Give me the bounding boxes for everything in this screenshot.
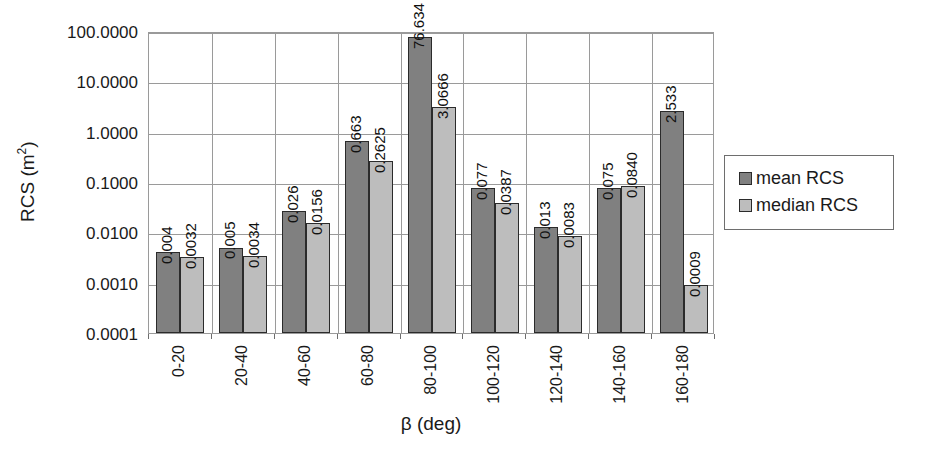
x-axis-tick-mark [714, 334, 715, 339]
bar-value-label-median-140-160: 0.0840 [624, 152, 639, 198]
bar-mean-40-60[interactable] [282, 211, 306, 333]
bar-median-60-80[interactable] [369, 161, 393, 333]
x-axis-tick-mark [211, 334, 212, 339]
bar-mean-160-180[interactable] [660, 111, 684, 333]
x-axis-label-140-160: 140-160 [612, 345, 628, 404]
x-axis-tick-mark [651, 334, 652, 339]
x-axis-label-80-100: 80-100 [423, 345, 439, 395]
bar-value-label-mean-80-100: 76.634 [411, 3, 426, 49]
bar-group-40-60: 0.0260.0156 [275, 33, 338, 333]
bar-value-label-mean-120-140: 0.013 [537, 201, 552, 239]
legend-label-median: median RCS [756, 195, 858, 216]
y-axis-tick-0.0100: 0.0100 [86, 225, 138, 242]
x-axis-label-60-80: 60-80 [360, 345, 376, 386]
y-axis-title: RCS (m2) [15, 122, 38, 242]
bar-mean-20-40[interactable] [219, 248, 243, 334]
bar-value-label-mean-0-20: 0.004 [159, 227, 174, 265]
bar-group-60-80: 0.6630.2625 [338, 33, 401, 333]
bar-value-label-median-80-100: 3.0666 [435, 73, 450, 119]
bar-value-label-median-160-180: 0.0009 [687, 251, 702, 297]
rcs-bar-chart: RCS (m2) 0.00010.00100.01000.10001.00001… [0, 0, 928, 452]
legend-item-median-rcs[interactable]: median RCS [739, 192, 883, 219]
bar-value-label-median-40-60: 0.0156 [309, 189, 324, 235]
bar-median-40-60[interactable] [306, 223, 330, 333]
y-axis-title-text: RCS (m [17, 154, 38, 222]
y-axis-tick-labels: 0.00010.00100.01000.10001.000010.0000100… [44, 32, 144, 334]
bar-mean-120-140[interactable] [534, 227, 558, 333]
y-axis-tick-100.0000: 100.0000 [67, 24, 138, 41]
legend-swatch-median-icon [739, 199, 752, 212]
bar-mean-100-120[interactable] [471, 188, 495, 333]
chart-legend: mean RCS median RCS [724, 155, 894, 230]
bar-median-120-140[interactable] [558, 236, 582, 333]
x-axis-label-20-40: 20-40 [234, 345, 250, 386]
x-axis-label-100-120: 100-120 [486, 345, 502, 404]
x-axis-tick-mark [525, 334, 526, 339]
bar-group-80-100: 76.6343.0666 [401, 33, 464, 333]
bar-value-label-mean-20-40: 0.005 [222, 222, 237, 260]
legend-swatch-mean-icon [739, 172, 752, 185]
bar-value-label-median-0-20: 0.0032 [183, 223, 198, 269]
y-axis-tick-0.0010: 0.0010 [86, 275, 138, 292]
x-axis-label-160-180: 160-180 [675, 345, 691, 404]
bar-group-140-160: 0.0750.0840 [589, 33, 652, 333]
plot-area: 0.0040.00320.0050.00340.0260.01560.6630.… [148, 32, 714, 334]
legend-label-mean: mean RCS [756, 168, 844, 189]
y-axis-tick-1.0000: 1.0000 [86, 124, 138, 141]
bar-value-label-median-20-40: 0.0034 [246, 222, 261, 268]
bar-value-label-mean-60-80: 0.663 [348, 115, 363, 153]
y-axis-tick-0.1000: 0.1000 [86, 175, 138, 192]
bar-group-20-40: 0.0050.0034 [212, 33, 275, 333]
bar-value-label-mean-100-120: 0.077 [474, 162, 489, 200]
x-axis-title: β (deg) [148, 413, 714, 435]
bar-value-label-mean-140-160: 0.075 [600, 163, 615, 201]
bar-group-100-120: 0.0770.0387 [463, 33, 526, 333]
x-axis-tick-mark [337, 334, 338, 339]
x-axis-tick-mark [400, 334, 401, 339]
x-axis-tick-mark [148, 334, 149, 339]
x-axis-tick-mark [588, 334, 589, 339]
bar-mean-60-80[interactable] [345, 141, 369, 333]
x-axis-tick-mark [274, 334, 275, 339]
bar-mean-80-100[interactable] [408, 37, 432, 333]
bar-group-120-140: 0.0130.0083 [526, 33, 589, 333]
y-axis-tick-10.0000: 10.0000 [77, 74, 138, 91]
y-axis-tick-0.0001: 0.0001 [86, 326, 138, 343]
bar-group-0-20: 0.0040.0032 [149, 33, 212, 333]
bar-median-100-120[interactable] [495, 203, 519, 333]
bar-value-label-mean-40-60: 0.026 [285, 186, 300, 224]
bar-mean-0-20[interactable] [156, 252, 180, 333]
bar-median-80-100[interactable] [432, 107, 456, 333]
x-axis-label-0-20: 0-20 [171, 345, 187, 377]
bar-group-160-180: 2.5330.0009 [652, 33, 715, 333]
x-axis-label-120-140: 120-140 [549, 345, 565, 404]
bar-mean-140-160[interactable] [597, 188, 621, 333]
bar-median-140-160[interactable] [621, 186, 645, 333]
bar-value-label-median-120-140: 0.0083 [561, 203, 576, 249]
y-axis-title-suffix: ) [17, 141, 38, 147]
bar-value-label-mean-160-180: 2.533 [663, 86, 678, 124]
bar-value-label-median-60-80: 0.2625 [372, 127, 387, 173]
y-axis-title-superscript: 2 [15, 148, 29, 155]
bar-value-label-median-100-120: 0.0387 [498, 169, 513, 215]
x-axis-tick-mark [462, 334, 463, 339]
legend-item-mean-rcs[interactable]: mean RCS [739, 165, 883, 192]
x-axis-label-40-60: 40-60 [297, 345, 313, 386]
